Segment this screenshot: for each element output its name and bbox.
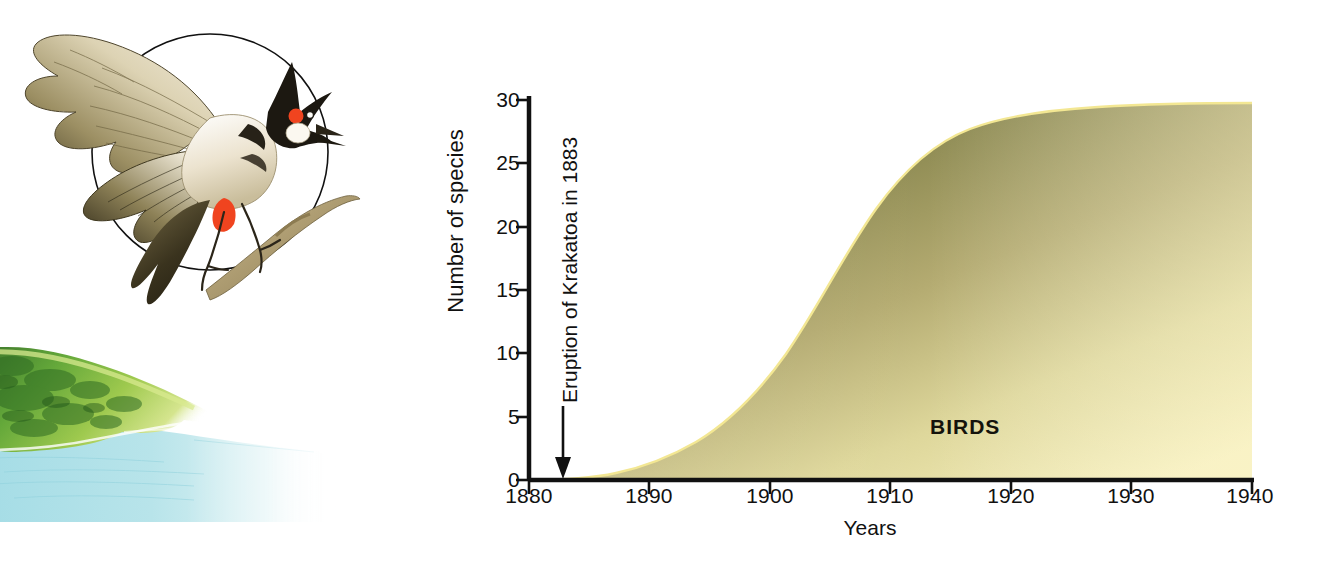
bird-cheek	[286, 123, 310, 143]
x-tick-1900: 1900	[746, 484, 794, 508]
x-tick-1890: 1890	[625, 484, 673, 508]
figure-panel: 0 5 10 15 20 25 30 1880 1890 1900 1910 1…	[0, 0, 1331, 568]
y-tick-30: 30	[496, 88, 520, 112]
bird-red-whisker	[289, 109, 304, 124]
y-tick-10: 10	[496, 341, 520, 365]
island-coastline-illustration	[0, 322, 344, 522]
x-axis-title: Years	[430, 516, 1310, 540]
bird-eye	[307, 112, 314, 119]
y-tick-5: 5	[508, 405, 520, 429]
x-tick-1930: 1930	[1107, 484, 1155, 508]
bird-medallion-illustration	[10, 0, 410, 310]
eruption-annotation-label: Eruption of Krakatoa in 1883	[558, 137, 582, 403]
y-axis-title: Number of species	[443, 111, 469, 331]
x-tick-1910: 1910	[866, 484, 914, 508]
x-tick-1880: 1880	[505, 484, 553, 508]
eruption-arrow-icon	[555, 406, 571, 479]
x-tick-1940: 1940	[1226, 484, 1274, 508]
y-tick-25: 25	[496, 151, 520, 175]
series-label-birds: BIRDS	[930, 415, 1000, 439]
birds-recolonization-chart: 0 5 10 15 20 25 30 1880 1890 1900 1910 1…	[430, 58, 1310, 558]
y-tick-15: 15	[496, 278, 520, 302]
x-axis-tick-labels: 1880 1890 1900 1910 1920 1930 1940	[430, 484, 1310, 518]
y-tick-20: 20	[496, 215, 520, 239]
x-tick-1920: 1920	[987, 484, 1035, 508]
